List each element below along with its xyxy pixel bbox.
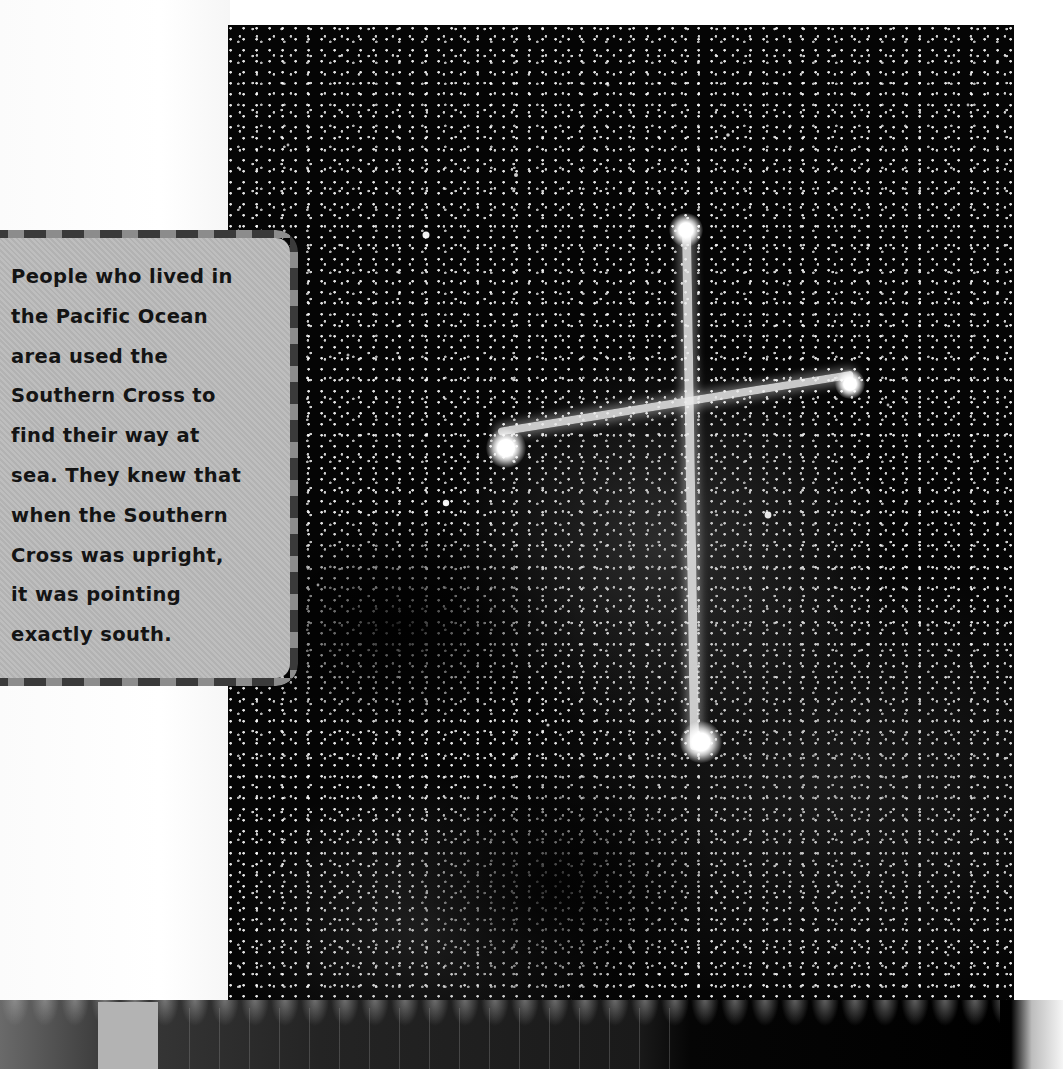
callout-line: area used the xyxy=(11,345,168,368)
star-top xyxy=(669,213,703,247)
scan-right-edge xyxy=(1011,1000,1063,1069)
callout-line: Southern Cross to xyxy=(11,384,216,407)
callout-line: People who lived in xyxy=(11,265,233,288)
callout-line: the Pacific Ocean xyxy=(11,305,208,328)
southern-cross-photo xyxy=(228,25,1014,1000)
star-left xyxy=(486,428,526,468)
callout-line: it was pointing xyxy=(11,583,181,606)
callout-text: People who lived in the Pacific Ocean ar… xyxy=(11,257,281,655)
star-bottom xyxy=(680,721,722,763)
page-bottom-scan-edge xyxy=(0,1000,1063,1069)
callout-line: exactly south. xyxy=(11,623,172,646)
callout-line: Cross was upright, xyxy=(11,544,224,567)
scan-light-block xyxy=(98,1002,158,1069)
callout-line: find their way at xyxy=(11,424,200,447)
starfield xyxy=(228,25,1014,1000)
callout-line: sea. They knew that xyxy=(11,464,241,487)
star-right xyxy=(835,369,865,399)
scan-vertical-lines xyxy=(160,1008,670,1069)
callout-line: when the Southern xyxy=(11,504,228,527)
